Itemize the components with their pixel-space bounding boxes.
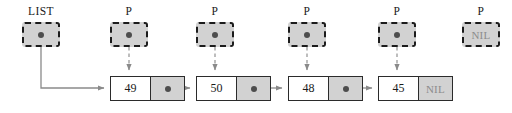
variable-label-p-2: P	[196, 5, 234, 17]
pointer-dot-icon	[38, 32, 44, 38]
variable-box-p-3[interactable]	[288, 22, 326, 47]
list-node[interactable]: 48	[288, 76, 363, 101]
node-nil-value: NIL	[426, 83, 445, 95]
pointer-dot-icon	[251, 86, 257, 92]
node-data-cell: 49	[111, 77, 150, 100]
pointer-dot-icon	[165, 86, 171, 92]
node-next-cell	[150, 77, 184, 100]
variable-box-p-5[interactable]: NIL	[462, 22, 500, 47]
variable-label-p-1: P	[110, 5, 148, 17]
pointer-dot-icon	[212, 32, 218, 38]
variable-label-p-4: P	[378, 5, 416, 17]
node-next-cell	[236, 77, 270, 100]
node-data-cell: 48	[289, 77, 328, 100]
pointer-dot-icon	[394, 32, 400, 38]
variable-box-p-1[interactable]	[110, 22, 148, 47]
variable-box-p-4[interactable]	[378, 22, 416, 47]
pointer-dot-icon	[304, 32, 310, 38]
variable-label-p-5: P	[462, 5, 500, 17]
linked-list-diagram: LIST P P P P P NIL 49 50 48	[0, 0, 512, 113]
pointer-dot-icon	[126, 32, 132, 38]
node-next-cell	[328, 77, 362, 100]
pointer-dot-icon	[343, 86, 349, 92]
list-node[interactable]: 45 NIL	[378, 76, 453, 101]
list-node[interactable]: 49	[110, 76, 185, 101]
variable-label-list: LIST	[22, 5, 60, 17]
node-next-cell: NIL	[418, 77, 452, 100]
variable-box-p-2[interactable]	[196, 22, 234, 47]
list-node[interactable]: 50	[196, 76, 271, 101]
node-data-cell: 45	[379, 77, 418, 100]
variable-label-p-3: P	[288, 5, 326, 17]
node-data-cell: 50	[197, 77, 236, 100]
variable-nil-value: NIL	[464, 24, 498, 45]
variable-box-list[interactable]	[22, 22, 60, 47]
